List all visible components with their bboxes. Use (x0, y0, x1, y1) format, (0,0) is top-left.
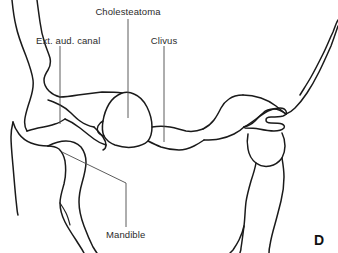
panel-letter-label: D (314, 232, 324, 248)
label-mandible: Mandible (106, 229, 145, 240)
label-clivus: Clivus (151, 35, 178, 46)
figure-panel: Cholesteatoma Ext. aud. canal Clivus Man… (0, 0, 338, 253)
label-cholesteatoma: Cholesteatoma (95, 6, 161, 17)
label-ext-aud-canal: Ext. aud. canal (36, 35, 100, 46)
anatomical-line-drawing: Cholesteatoma Ext. aud. canal Clivus Man… (0, 0, 338, 253)
